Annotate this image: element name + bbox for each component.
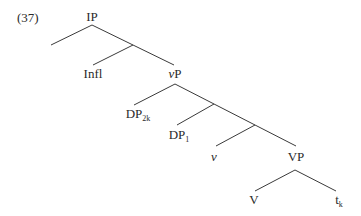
edge-vp-dp2k <box>134 84 175 105</box>
node-ip: IP <box>86 10 98 23</box>
node-dp1: DP1 <box>169 128 190 141</box>
edge-ip-left <box>51 25 92 45</box>
node-v-text: V <box>249 192 258 207</box>
node-dp2k-text: DP <box>126 106 143 121</box>
node-little-v-text: v <box>211 149 217 164</box>
node-infl-text: Infl <box>84 66 103 81</box>
edge-vbar-dp1 <box>177 104 214 125</box>
node-dp2k-subscript: 2k <box>142 114 150 123</box>
node-little-v: v <box>211 150 217 163</box>
node-ip-text: IP <box>86 9 98 24</box>
node-little-vp-text: P <box>174 66 181 81</box>
node-dp1-subscript: 1 <box>185 135 189 144</box>
tree-edges <box>0 0 361 216</box>
edge-vp-trace <box>295 170 336 191</box>
node-trace-subscript: k <box>339 200 343 209</box>
edge-vp-spine <box>175 84 296 146</box>
node-dp1-text: DP <box>169 127 186 142</box>
node-v: V <box>249 193 258 206</box>
node-vp: VP <box>288 150 305 163</box>
node-infl: Infl <box>84 67 103 80</box>
syntax-tree-diagram: (37) IP Infl vP DP2k DP1 v VP V tk <box>0 0 361 216</box>
edge-vp-v <box>255 170 295 191</box>
example-number: (37) <box>17 11 39 24</box>
node-little-vp: vP <box>168 67 181 80</box>
edge-ibar-infl <box>93 45 133 65</box>
node-vp-text: VP <box>288 149 305 164</box>
edge-vbar2-v <box>216 125 255 146</box>
node-dp2k: DP2k <box>126 107 151 120</box>
node-trace: tk <box>335 193 343 206</box>
